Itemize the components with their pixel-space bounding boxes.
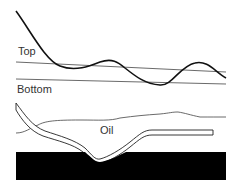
diagram-graphics bbox=[0, 0, 238, 191]
bottom-label: Bottom bbox=[17, 84, 52, 95]
bedrock-block bbox=[16, 152, 226, 180]
top-label: Top bbox=[18, 46, 36, 57]
oil-trap-diagram: Top Bottom Oil bbox=[0, 0, 238, 191]
wavy-curve bbox=[16, 11, 226, 85]
oil-label: Oil bbox=[100, 125, 113, 136]
